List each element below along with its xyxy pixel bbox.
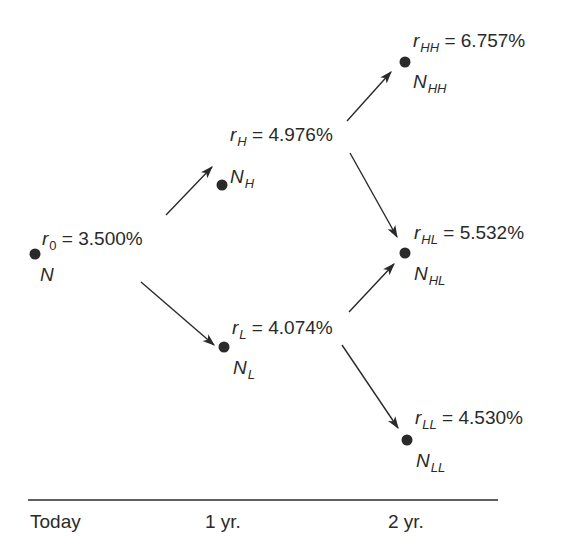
equals-sign: = (252, 317, 263, 338)
rate-value: 4.530% (458, 407, 522, 428)
price-label-l: NL (233, 358, 255, 377)
rate-subscript: HH (420, 40, 439, 55)
price-symbol: N (233, 357, 247, 378)
price-subscript: LL (431, 460, 445, 475)
arrow-l-to-hl (349, 264, 394, 312)
rate-label-l: rL = 4.074% (232, 318, 333, 337)
rate-symbol: r (230, 124, 236, 145)
node-dot-l (219, 342, 230, 353)
arrow-root-to-l (141, 282, 214, 345)
rate-label-ll: rLL = 4.530% (415, 408, 523, 427)
price-symbol: N (40, 264, 54, 285)
equals-sign: = (252, 124, 263, 145)
price-subscript: HH (428, 81, 447, 96)
rate-symbol: r (42, 228, 48, 249)
price-subscript: L (248, 367, 255, 382)
price-subscript: H (245, 176, 254, 191)
rate-symbol: r (415, 407, 421, 428)
equals-sign: = (442, 407, 453, 428)
rate-label-root: r0 = 3.500% (42, 229, 143, 248)
rate-value: 5.532% (460, 222, 524, 243)
price-subscript: HL (429, 273, 446, 288)
rate-symbol: r (413, 30, 419, 51)
node-dot-hl (400, 248, 411, 259)
rate-symbol: r (414, 222, 420, 243)
price-label-h: NH (230, 167, 254, 186)
arrow-h-to-hl (350, 153, 397, 237)
arrow-h-to-hh (347, 72, 391, 121)
rate-label-hl: rHL = 5.532% (414, 223, 524, 242)
rate-value: 4.976% (268, 124, 332, 145)
node-dot-hh (400, 57, 411, 68)
price-label-hl: NHL (414, 264, 445, 283)
price-symbol: N (230, 166, 244, 187)
node-dot-ll (402, 435, 413, 446)
price-label-hh: NHH (413, 72, 447, 91)
rate-symbol: r (232, 317, 238, 338)
price-symbol: N (414, 263, 428, 284)
rate-subscript: HL (421, 232, 438, 247)
rate-label-hh: rHH = 6.757% (413, 31, 525, 50)
equals-sign: = (62, 228, 73, 249)
rate-subscript: LL (422, 417, 436, 432)
timeline-label-today: Today (30, 511, 81, 533)
arrow-root-to-h (166, 167, 212, 215)
arrow-l-to-ll (342, 345, 398, 428)
rate-value: 4.074% (268, 317, 332, 338)
equals-sign: = (444, 30, 455, 51)
timeline-label-1yr: 1 yr. (205, 511, 241, 533)
equals-sign: = (443, 222, 454, 243)
node-dot-h (217, 180, 228, 191)
rate-value: 3.500% (78, 228, 142, 249)
price-symbol: N (416, 450, 430, 471)
rate-value: 6.757% (461, 30, 525, 51)
node-dot-root (30, 249, 41, 260)
rate-subscript: H (237, 134, 246, 149)
rate-subscript: 0 (49, 238, 56, 253)
price-symbol: N (413, 71, 427, 92)
timeline-label-2yr: 2 yr. (388, 511, 424, 533)
tree-diagram (0, 0, 568, 555)
rate-subscript: L (239, 327, 246, 342)
price-label-ll: NLL (416, 451, 445, 470)
rate-label-h: rH = 4.976% (230, 125, 333, 144)
price-label-root: N (40, 265, 54, 284)
